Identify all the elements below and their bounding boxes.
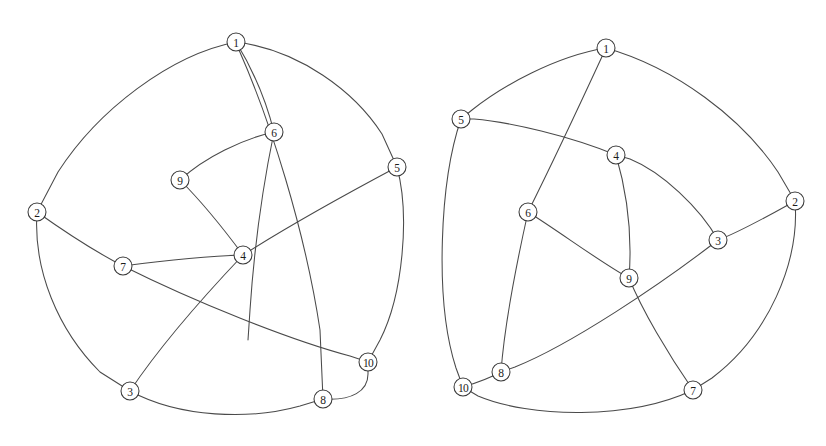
node-3[interactable]: 3	[121, 382, 139, 400]
left-graph-node-layer: 12345678910	[28, 33, 406, 408]
node-5[interactable]: 5	[388, 158, 406, 176]
edge-6-8[interactable]	[501, 212, 528, 372]
node-10[interactable]: 10	[454, 378, 472, 396]
edge-3-4[interactable]	[130, 255, 243, 391]
node-label-4: 4	[240, 250, 246, 262]
figure-canvas: 1234567891012345678910	[0, 0, 826, 446]
edge-2-7[interactable]	[37, 212, 123, 266]
node-3[interactable]: 3	[709, 231, 727, 249]
node-label-6: 6	[525, 207, 531, 219]
node-8[interactable]: 8	[314, 390, 332, 408]
node-label-4: 4	[613, 150, 619, 162]
edge-4-9[interactable]	[180, 180, 243, 255]
node-5[interactable]: 5	[452, 110, 470, 128]
edge-4-7[interactable]	[123, 255, 243, 266]
node-label-8: 8	[320, 394, 326, 406]
node-label-7: 7	[690, 385, 696, 397]
node-1[interactable]: 1	[597, 39, 615, 57]
node-9[interactable]: 9	[620, 269, 638, 287]
node-7[interactable]: 7	[114, 257, 132, 275]
node-6[interactable]: 6	[519, 203, 537, 221]
right-graph-edge-layer	[442, 48, 795, 413]
edge-3-8[interactable]	[501, 240, 718, 372]
node-label-5: 5	[394, 162, 400, 174]
edge-4-5[interactable]	[461, 119, 616, 155]
node-1[interactable]: 1	[227, 33, 245, 51]
edge-2-3[interactable]	[37, 212, 130, 391]
edge-1-5[interactable]	[236, 42, 397, 167]
node-2[interactable]: 2	[28, 203, 46, 221]
node-label-7: 7	[120, 261, 126, 273]
edge-1-2[interactable]	[606, 48, 795, 201]
node-label-2: 2	[792, 196, 798, 208]
edge-2-7[interactable]	[693, 201, 796, 390]
node-label-9: 9	[177, 175, 183, 187]
right-graph: 12345678910	[442, 39, 804, 413]
node-label-9: 9	[626, 273, 632, 285]
node-label-10: 10	[458, 382, 469, 394]
node-label-10: 10	[363, 357, 374, 369]
node-label-6: 6	[271, 127, 277, 139]
node-4[interactable]: 4	[234, 246, 252, 264]
edge-6-9[interactable]	[180, 132, 274, 180]
edge-7-10[interactable]	[123, 266, 368, 362]
node-8[interactable]: 8	[492, 363, 510, 381]
edge-1-6[interactable]	[528, 48, 606, 212]
edge-6-8[interactable]	[248, 132, 274, 340]
node-9[interactable]: 9	[171, 171, 189, 189]
edge-3-8[interactable]	[130, 391, 323, 415]
node-label-2: 2	[34, 207, 40, 219]
edge-6-9[interactable]	[528, 212, 629, 278]
edge-7-9[interactable]	[629, 278, 693, 390]
node-10[interactable]: 10	[359, 353, 377, 371]
left-graph-edge-layer	[37, 42, 404, 415]
left-graph: 12345678910	[28, 33, 406, 415]
node-6[interactable]: 6	[265, 123, 283, 141]
node-label-1: 1	[603, 43, 609, 55]
edge-5-10[interactable]	[442, 119, 463, 387]
edge-7-10[interactable]	[463, 387, 693, 413]
edge-2-3[interactable]	[718, 201, 795, 240]
edge-1-5[interactable]	[461, 48, 606, 119]
node-label-1: 1	[233, 37, 239, 49]
node-4[interactable]: 4	[607, 146, 625, 164]
node-label-3: 3	[127, 386, 133, 398]
edge-1-2[interactable]	[37, 42, 236, 212]
node-2[interactable]: 2	[786, 192, 804, 210]
node-label-8: 8	[498, 367, 504, 379]
graph-figure: 1234567891012345678910	[0, 0, 826, 446]
edge-1-8[interactable]	[239, 50, 323, 399]
graphs-root: 1234567891012345678910	[28, 33, 804, 415]
node-label-3: 3	[715, 235, 721, 247]
edge-5-10[interactable]	[368, 167, 403, 362]
edge-4-5[interactable]	[243, 167, 397, 255]
node-label-5: 5	[458, 114, 464, 126]
edge-3-4[interactable]	[616, 155, 718, 240]
node-7[interactable]: 7	[684, 381, 702, 399]
edge-4-9[interactable]	[616, 155, 630, 278]
